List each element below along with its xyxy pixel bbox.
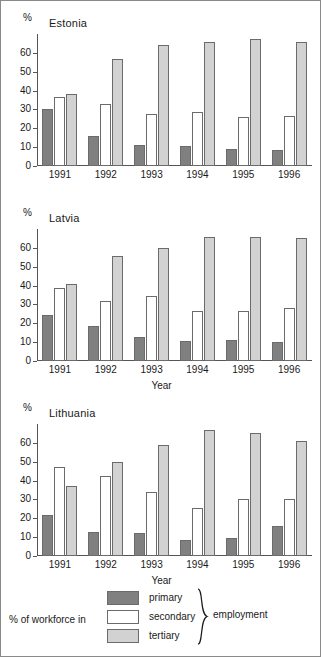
y-tick bbox=[33, 537, 37, 538]
x-tick-label: 1995 bbox=[232, 169, 254, 180]
y-tick bbox=[33, 286, 37, 287]
bar-primary bbox=[180, 540, 191, 556]
bar-tertiary bbox=[204, 430, 215, 556]
bar-secondary bbox=[100, 104, 111, 166]
legend-caption: % of workforce in bbox=[9, 614, 86, 625]
legend-item: secondary bbox=[107, 607, 195, 626]
bar-tertiary bbox=[158, 445, 169, 556]
bar-secondary bbox=[54, 288, 65, 361]
bar-secondary bbox=[238, 117, 249, 166]
x-tick-label: 1994 bbox=[186, 169, 208, 180]
bar-primary bbox=[134, 533, 145, 556]
bar-group: 1992 bbox=[88, 424, 123, 556]
y-tick-label: 10 bbox=[20, 337, 31, 347]
bar-group: 1993 bbox=[134, 229, 169, 361]
y-tick bbox=[33, 166, 37, 167]
bar-primary bbox=[88, 532, 99, 556]
bar-tertiary bbox=[296, 42, 307, 166]
y-tick-label: 20 bbox=[20, 318, 31, 328]
y-tick bbox=[33, 72, 37, 73]
legend-swatch-tertiary bbox=[107, 629, 139, 643]
y-tick-label: 10 bbox=[20, 532, 31, 542]
bar-secondary bbox=[192, 311, 203, 361]
bar-tertiary bbox=[66, 486, 77, 556]
y-tick bbox=[33, 499, 37, 500]
y-tick-label: 60 bbox=[20, 243, 31, 253]
bar-secondary bbox=[146, 492, 157, 556]
bar-group: 1993 bbox=[134, 424, 169, 556]
y-tick-label: 0 bbox=[25, 551, 31, 561]
legend-label: tertiary bbox=[149, 630, 180, 641]
y-axis bbox=[37, 34, 38, 166]
y-tick-label: 20 bbox=[20, 513, 31, 523]
chart-figure: %Estonia01020304050601991199219931994199… bbox=[0, 0, 321, 657]
chart-legend: % of workforce in primarysecondarytertia… bbox=[1, 578, 321, 656]
bar-tertiary bbox=[250, 237, 261, 361]
legend-item: primary bbox=[107, 588, 195, 607]
bar-tertiary bbox=[250, 433, 261, 556]
bar-primary bbox=[272, 342, 283, 361]
bar-group: 1996 bbox=[272, 424, 307, 556]
bar-group: 1996 bbox=[272, 229, 307, 361]
bar-primary bbox=[134, 145, 145, 166]
y-tick bbox=[33, 481, 37, 482]
y-tick bbox=[33, 323, 37, 324]
bar-primary bbox=[42, 515, 53, 556]
y-tick bbox=[33, 248, 37, 249]
x-tick-label: 1992 bbox=[95, 169, 117, 180]
x-tick-label: 1993 bbox=[140, 169, 162, 180]
bar-group: 1992 bbox=[88, 229, 123, 361]
bar-primary bbox=[180, 146, 191, 166]
bar-secondary bbox=[238, 499, 249, 557]
y-tick-label: 0 bbox=[25, 356, 31, 366]
bar-group: 1994 bbox=[180, 229, 215, 361]
x-axis-title: Year bbox=[1, 380, 321, 391]
bar-tertiary bbox=[158, 248, 169, 361]
bar-tertiary bbox=[112, 59, 123, 166]
y-axis-unit: % bbox=[23, 207, 32, 218]
bar-group: 1995 bbox=[226, 229, 261, 361]
bar-primary bbox=[226, 149, 237, 166]
bar-tertiary bbox=[296, 441, 307, 556]
bar-primary bbox=[42, 315, 53, 361]
y-tick-label: 30 bbox=[20, 494, 31, 504]
bar-group: 1994 bbox=[180, 424, 215, 556]
x-tick-label: 1996 bbox=[278, 559, 300, 570]
bar-secondary bbox=[238, 311, 249, 361]
legend-swatch-primary bbox=[107, 591, 139, 605]
x-tick-label: 1993 bbox=[140, 364, 162, 375]
bar-primary bbox=[226, 340, 237, 361]
y-tick bbox=[33, 267, 37, 268]
legend-label: secondary bbox=[149, 611, 195, 622]
legend-items: primarysecondarytertiary bbox=[107, 588, 195, 645]
y-tick bbox=[33, 518, 37, 519]
bar-group: 1992 bbox=[88, 34, 123, 166]
y-tick-label: 0 bbox=[25, 161, 31, 171]
x-tick-label: 1991 bbox=[49, 169, 71, 180]
legend-swatch-secondary bbox=[107, 610, 139, 624]
y-tick-label: 50 bbox=[20, 67, 31, 77]
bar-secondary bbox=[284, 116, 295, 166]
x-tick-label: 1996 bbox=[278, 364, 300, 375]
bar-secondary bbox=[284, 308, 295, 361]
bar-primary bbox=[88, 326, 99, 361]
panel-estonia: %Estonia01020304050601991199219931994199… bbox=[1, 7, 321, 199]
y-tick bbox=[33, 147, 37, 148]
bar-group: 1994 bbox=[180, 34, 215, 166]
x-tick-label: 1991 bbox=[49, 559, 71, 570]
bar-group: 1995 bbox=[226, 424, 261, 556]
x-tick-label: 1992 bbox=[95, 559, 117, 570]
bar-primary bbox=[272, 150, 283, 166]
y-tick-label: 50 bbox=[20, 262, 31, 272]
bar-primary bbox=[42, 109, 53, 167]
panel-latvia: %Latvia010203040506019911992199319941995… bbox=[1, 202, 321, 394]
panel-lithuania: %Lithuania010203040506019911992199319941… bbox=[1, 397, 321, 589]
bar-tertiary bbox=[158, 45, 169, 166]
bar-group: 1996 bbox=[272, 34, 307, 166]
y-tick-label: 60 bbox=[20, 48, 31, 58]
y-tick-label: 50 bbox=[20, 457, 31, 467]
y-tick bbox=[33, 443, 37, 444]
y-tick-label: 60 bbox=[20, 438, 31, 448]
y-tick bbox=[33, 109, 37, 110]
panel-title: Lithuania bbox=[49, 407, 95, 419]
